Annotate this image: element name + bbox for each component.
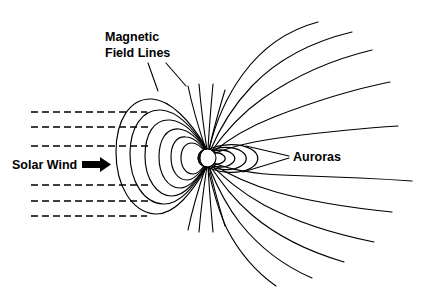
right-arrow-icon — [82, 157, 111, 172]
pole-spray-n-3 — [208, 84, 213, 150]
magnetic-field-lines-label-line1: Magnetic — [105, 30, 159, 44]
magnetotail-lower-lines — [208, 163, 412, 286]
tail-line-lower-4 — [210, 166, 344, 262]
magnetotail-upper-lines — [209, 22, 398, 154]
magnetosphere-diagram: Magnetic Field Lines Solar Wind Auroras — [0, 0, 422, 305]
solar-wind-label: Solar Wind — [12, 158, 77, 172]
arrow-glyph — [82, 157, 111, 172]
tail-line-upper-1 — [209, 22, 318, 150]
tail-line-upper-4 — [212, 82, 390, 153]
leader-aurora-upper — [246, 146, 289, 156]
magnetic-field-lines-label-line2: Field Lines — [105, 46, 170, 60]
magnetic-field-lines-leaders — [148, 63, 186, 91]
leader-field-left — [148, 63, 158, 91]
auroras-label: Auroras — [293, 150, 341, 164]
leader-field-right — [166, 63, 186, 86]
pole-spray-n-1 — [188, 86, 206, 150]
magnetosphere-figure: Magnetic Field Lines Solar Wind Auroras — [0, 0, 422, 305]
field-loop-outer-2 — [130, 110, 207, 204]
tail-line-lower-2 — [212, 164, 392, 212]
dayside-field-loops — [116, 99, 207, 214]
tail-line-lower-6 — [208, 168, 276, 286]
leader-aurora-lower — [243, 158, 289, 172]
earth-planet-icon — [198, 149, 216, 167]
